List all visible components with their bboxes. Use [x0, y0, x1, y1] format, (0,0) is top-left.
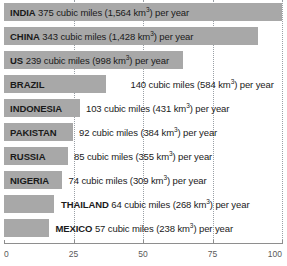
country-label: INDONESIA — [10, 103, 62, 114]
bar-country-text: PAKISTAN — [10, 120, 56, 144]
bar-text: MEXICO57 cubic miles (238 km3) per year — [55, 216, 233, 240]
superscript-three: 3 — [146, 5, 150, 12]
country-label: MEXICO — [55, 223, 92, 234]
bar-text: CHINA343 cubic miles (1,428 km3) per yea… — [10, 24, 193, 48]
country-label: BRAZIL — [10, 79, 44, 90]
country-label: PAKISTAN — [10, 127, 56, 138]
x-tick-0 — [4, 240, 5, 244]
value-label: 57 cubic miles (238 km3) per year — [95, 223, 233, 234]
bar-text: INDIA375 cubic miles (1,564 km3) per yea… — [10, 0, 189, 24]
value-label: 103 cubic miles (431 km3) per year — [86, 103, 229, 114]
bar-thailand[interactable] — [4, 195, 54, 213]
water-usage-bar-chart: INDIA375 cubic miles (1,564 km3) per yea… — [0, 0, 287, 266]
bar-text: THAILAND64 cubic miles (268 km3) per yea… — [61, 192, 249, 216]
value-label: 375 cubic miles (1,564 km3) per year — [38, 7, 189, 18]
value-label: 85 cubic miles (355 km3) per year — [74, 151, 212, 162]
value-label: 140 cubic miles (584 km3) per year — [130, 79, 273, 90]
x-tick-label-75: 75 — [208, 249, 217, 259]
country-label: RUSSIA — [10, 151, 45, 162]
country-label: CHINA — [10, 31, 40, 42]
x-tick-label-50: 50 — [138, 249, 147, 259]
bar-value-text: 140 cubic miles (584 km3) per year — [130, 72, 273, 96]
bar-row[interactable]: MEXICO57 cubic miles (238 km3) per year — [0, 216, 287, 240]
x-tick-25 — [74, 240, 75, 244]
superscript-three: 3 — [126, 53, 130, 60]
x-tick-label-25: 25 — [69, 249, 78, 259]
value-label: 239 cubic miles (998 km3) per year — [26, 55, 169, 66]
value-label: 74 cubic miles (309 km3) per year — [68, 175, 206, 186]
superscript-three: 3 — [174, 125, 178, 132]
bar-row[interactable]: US239 cubic miles (998 km3) per year — [0, 48, 287, 72]
value-label: 92 cubic miles (384 km3) per year — [79, 127, 217, 138]
bar-value-text: 103 cubic miles (431 km3) per year — [86, 96, 229, 120]
x-tick-label-100: 100 — [268, 249, 282, 259]
bar-mexico[interactable] — [4, 219, 49, 237]
bar-value-text: 85 cubic miles (355 km3) per year — [74, 144, 212, 168]
superscript-three: 3 — [206, 197, 210, 204]
bar-row[interactable]: THAILAND64 cubic miles (268 km3) per yea… — [0, 192, 287, 216]
bar-country-text: RUSSIA — [10, 144, 45, 168]
x-tick-label-0: 0 — [4, 249, 9, 259]
value-label: 343 cubic miles (1,428 km3) per year — [42, 31, 193, 42]
x-tick-50 — [143, 240, 144, 244]
bar-value-text: 92 cubic miles (384 km3) per year — [79, 120, 217, 144]
bar-country-text: INDONESIA — [10, 96, 62, 120]
bar-text: US239 cubic miles (998 km3) per year — [10, 48, 169, 72]
superscript-three: 3 — [231, 77, 235, 84]
country-label: INDIA — [10, 7, 35, 18]
bar-country-text: NIGERIA — [10, 168, 49, 192]
country-label: US — [10, 55, 23, 66]
value-label: 64 cubic miles (268 km3) per year — [111, 199, 249, 210]
superscript-three: 3 — [163, 173, 167, 180]
superscript-three: 3 — [150, 29, 154, 36]
superscript-three: 3 — [169, 149, 173, 156]
bar-row[interactable]: CHINA343 cubic miles (1,428 km3) per yea… — [0, 24, 287, 48]
bar-value-text: 74 cubic miles (309 km3) per year — [68, 168, 206, 192]
bar-row[interactable]: INDIA375 cubic miles (1,564 km3) per yea… — [0, 0, 287, 24]
x-tick-75 — [213, 240, 214, 244]
bar-row[interactable]: BRAZIL140 cubic miles (584 km3) per year — [0, 72, 287, 96]
country-label: THAILAND — [61, 199, 109, 210]
x-tick-100 — [282, 240, 283, 244]
plot-area: INDIA375 cubic miles (1,564 km3) per yea… — [0, 0, 287, 240]
bar-row[interactable]: RUSSIA85 cubic miles (355 km3) per year — [0, 144, 287, 168]
superscript-three: 3 — [186, 101, 190, 108]
superscript-three: 3 — [190, 221, 194, 228]
bar-row[interactable]: PAKISTAN92 cubic miles (384 km3) per yea… — [0, 120, 287, 144]
bar-row[interactable]: NIGERIA74 cubic miles (309 km3) per year — [0, 168, 287, 192]
bar-country-text: BRAZIL — [10, 72, 44, 96]
bar-row[interactable]: INDONESIA103 cubic miles (431 km3) per y… — [0, 96, 287, 120]
country-label: NIGERIA — [10, 175, 49, 186]
